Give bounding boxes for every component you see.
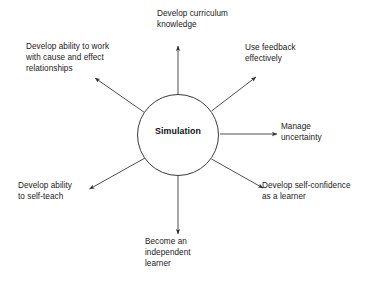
node-label-cause-and-effect: Develop ability to work with cause and e… xyxy=(26,41,109,75)
node-label-curriculum-knowledge: Develop curriculum knowledge xyxy=(157,8,228,30)
arrow-to-use-feedback xyxy=(212,77,257,111)
center-node-label: Simulation xyxy=(137,126,219,136)
node-label-self-confidence: Develop self-confidence as a learner xyxy=(262,180,351,202)
node-label-use-feedback: Use feedback effectively xyxy=(245,42,296,64)
arrow-to-self-confidence xyxy=(212,159,264,188)
node-label-manage-uncertainty: Manage uncertainty xyxy=(281,121,322,143)
arrow-to-self-teach xyxy=(90,158,146,189)
node-label-self-teach: Develop ability to self-teach xyxy=(18,180,72,202)
node-label-independent-learner: Become an independent learner xyxy=(145,236,191,270)
arrow-to-cause-and-effect xyxy=(95,78,145,113)
simulation-benefits-diagram: Simulation Develop curriculum knowledge … xyxy=(0,0,391,284)
